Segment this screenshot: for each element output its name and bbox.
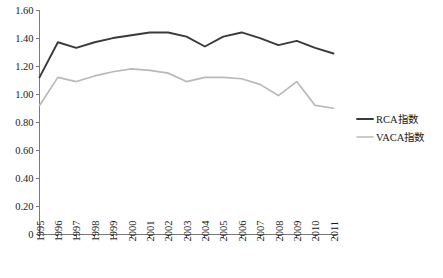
x-tick-label: 1999 (108, 221, 119, 242)
x-tick-label: 1995 (35, 221, 46, 242)
x-tick-label: 2011 (329, 221, 340, 242)
x-tick-label: 2009 (292, 221, 303, 242)
y-tick-label: 0.20 (15, 201, 33, 212)
data-series-group (40, 32, 334, 108)
y-tick-label: 1.20 (15, 61, 33, 72)
x-tick-label: 2001 (145, 221, 156, 242)
line-chart: 1.601.401.201.000.800.600.400.200 199519… (0, 0, 443, 278)
y-tick-label: 1.60 (15, 5, 33, 16)
x-tick-label: 2000 (127, 221, 138, 242)
x-tick-label: 2005 (218, 221, 229, 242)
y-tick-label: 0 (28, 229, 33, 240)
x-tick-label: 1997 (71, 221, 82, 242)
x-tick-label: 2004 (200, 220, 211, 242)
x-tick-label: 2006 (237, 221, 248, 242)
x-tick-label: 2008 (274, 221, 285, 242)
x-tick-label: 1996 (53, 221, 64, 242)
x-tick-label: 2007 (255, 221, 266, 242)
y-tick-label: 0.60 (15, 145, 33, 156)
chart-plot-area: 1.601.401.201.000.800.600.400.200 199519… (0, 0, 443, 278)
x-tick-label: 2002 (163, 221, 174, 242)
chart-legend: RCA指数VACA指数 (357, 113, 425, 143)
y-tick-label: 1.40 (15, 33, 33, 44)
legend-label-vaca: VACA指数 (376, 131, 425, 143)
x-axis: 1995199619971998199920002001200220032004… (35, 220, 340, 242)
y-tick-label: 1.00 (15, 89, 33, 100)
y-tick-label: 0.40 (15, 173, 33, 184)
legend-label-rca: RCA指数 (376, 113, 419, 125)
series-line-vaca (40, 69, 334, 108)
x-tick-label: 1998 (90, 221, 101, 242)
x-tick-label: 2010 (310, 221, 321, 242)
y-axis: 1.601.401.201.000.800.600.400.200 (15, 5, 39, 241)
x-tick-label: 2003 (182, 221, 193, 242)
series-line-rca (40, 32, 334, 77)
y-tick-label: 0.80 (15, 117, 33, 128)
